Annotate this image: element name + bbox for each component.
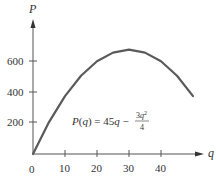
formula-numerator: 3q2 [136, 110, 147, 120]
chart: P q 0 10 20 30 40 200 400 600 P(q) = 45q… [0, 0, 216, 179]
x-axis-label: q [208, 146, 214, 160]
x-axis-arrow-icon [195, 152, 204, 157]
profit-curve [33, 50, 193, 154]
y-axis-arrow-icon [31, 19, 36, 28]
formula-denominator: 4 [140, 123, 144, 132]
origin-label: 0 [29, 163, 35, 175]
formula-main: P(q) = 45q − [71, 115, 129, 128]
x-tick-label: 30 [123, 162, 135, 174]
y-tick-label: 600 [7, 55, 24, 67]
x-tick-label: 20 [91, 162, 103, 174]
x-tick-label: 10 [59, 162, 71, 174]
y-axis-label: P [28, 2, 37, 16]
y-tick-label: 400 [7, 86, 24, 98]
y-tick-label: 200 [7, 116, 24, 128]
x-tick-label: 40 [155, 162, 167, 174]
